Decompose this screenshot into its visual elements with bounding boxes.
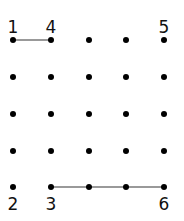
grid-dot (48, 111, 54, 117)
grid-dot (161, 148, 167, 154)
grid-dot (123, 111, 129, 117)
grid-dot (10, 111, 16, 117)
grid-dot (86, 148, 92, 154)
grid-dot (161, 184, 167, 190)
grid-dot (48, 184, 54, 190)
grid-dot (48, 148, 54, 154)
grid-dot (10, 184, 16, 190)
dot-grid-diagram: 145236 (0, 0, 184, 221)
grid-dot (86, 184, 92, 190)
grid-dot (86, 111, 92, 117)
grid-dot (123, 184, 129, 190)
dots (10, 37, 167, 190)
point-label-4: 4 (46, 17, 57, 37)
grid-dot (161, 74, 167, 80)
point-label-5: 5 (159, 17, 170, 37)
grid-dot (48, 37, 54, 43)
grid-dot (123, 37, 129, 43)
point-label-6: 6 (159, 194, 170, 214)
grid-dot (123, 74, 129, 80)
point-label-3: 3 (46, 194, 57, 214)
grid-dot (161, 111, 167, 117)
grid-dot (161, 37, 167, 43)
grid-dot (86, 37, 92, 43)
grid-dot (10, 148, 16, 154)
grid-dot (10, 37, 16, 43)
grid-dot (10, 74, 16, 80)
grid-dot (48, 74, 54, 80)
point-label-1: 1 (8, 17, 19, 37)
point-label-2: 2 (8, 194, 19, 214)
grid-dot (123, 148, 129, 154)
grid-dot (86, 74, 92, 80)
